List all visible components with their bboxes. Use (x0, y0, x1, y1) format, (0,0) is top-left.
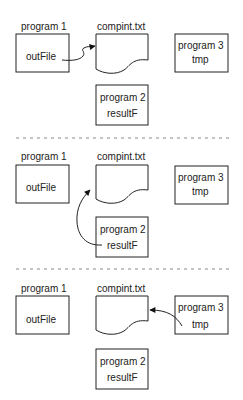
program2-box (96, 349, 148, 389)
diagram-canvas: program 1 outFile compint.txt program 2 … (0, 0, 243, 400)
file-title: compint.txt (97, 283, 146, 294)
arrow-program1-to-file (62, 46, 95, 60)
program1-title: program 1 (21, 151, 67, 162)
program1-var: outFile (26, 182, 56, 193)
program1-var: outFile (26, 51, 56, 62)
file-title: compint.txt (97, 151, 146, 162)
file-icon (96, 34, 148, 73)
file-icon (96, 165, 148, 203)
program2-box (96, 217, 148, 257)
program3-var: tmp (192, 186, 209, 197)
panel-3: program 1 outFile compint.txt program 2 … (16, 283, 228, 389)
program3-var: tmp (192, 54, 209, 65)
program1-title: program 1 (21, 21, 67, 32)
program3-title: program 3 (178, 40, 224, 51)
arrow-program2-to-file (77, 190, 102, 245)
program2-title: program 2 (100, 224, 146, 235)
program3-var: tmp (192, 319, 209, 330)
program2-box (96, 85, 148, 125)
program2-title: program 2 (100, 356, 146, 367)
program2-title: program 2 (100, 92, 146, 103)
program3-title: program 3 (178, 302, 224, 313)
program1-title: program 1 (21, 283, 67, 294)
program2-var: resultF (107, 240, 138, 251)
program2-var: resultF (107, 372, 138, 383)
panel-2: program 1 outFile compint.txt program 2 … (16, 151, 228, 257)
program3-title: program 3 (178, 172, 224, 183)
file-icon (96, 296, 148, 334)
file-title: compint.txt (97, 21, 146, 32)
panel-1: program 1 outFile compint.txt program 2 … (16, 21, 228, 125)
program1-var: outFile (26, 314, 56, 325)
program2-var: resultF (107, 108, 138, 119)
